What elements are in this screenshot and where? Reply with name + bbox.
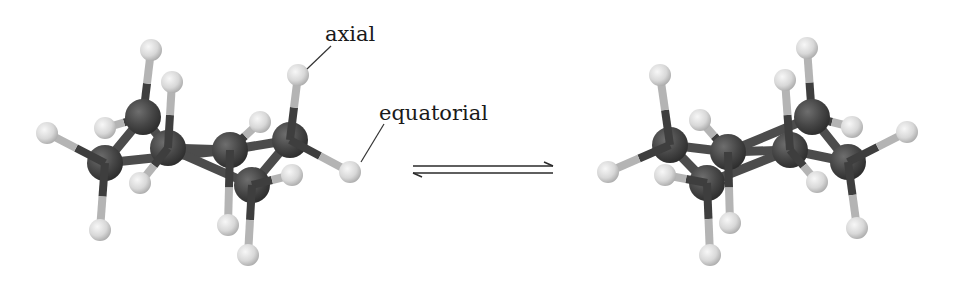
ch-bond: [728, 152, 729, 188]
ch-bond: [665, 110, 670, 145]
hydrogen-atom-equatorial: [689, 109, 711, 131]
hydrogen-atom-equatorial: [841, 116, 863, 138]
hydrogen-atom-axial: [719, 212, 741, 234]
axial-label: axial: [325, 24, 375, 45]
hydrogen-atom-equatorial: [36, 122, 58, 144]
carbon-atom: [794, 99, 830, 135]
hydrogen-atom-equatorial: [597, 161, 619, 183]
left-chair-back: [94, 39, 271, 150]
hydrogen-atom-equatorial: [249, 111, 271, 133]
axial-leader-line: [307, 46, 331, 69]
hydrogen-atom-equatorial: [339, 161, 361, 183]
right-chair: [652, 99, 866, 201]
hydrogen-atom-equatorial: [806, 171, 828, 193]
hydrogen-atom-axial: [287, 64, 309, 86]
equatorial-leader-line: [361, 124, 384, 162]
hydrogen-atom-axial: [796, 37, 818, 59]
hydrogen-atom-equatorial: [896, 121, 918, 143]
hydrogen-atom-equatorial: [654, 164, 676, 186]
left-chair: [87, 99, 308, 203]
hydrogen-atom-axial: [774, 69, 796, 91]
ch-bond: [252, 180, 272, 185]
hydrogen-atom-axial: [217, 214, 239, 236]
carbon-atom: [125, 99, 161, 135]
hydrogen-atom-axial: [846, 217, 868, 239]
hydrogen-atom-equatorial: [129, 172, 151, 194]
ch-bond: [250, 185, 252, 220]
hydrogen-atom-axial: [89, 219, 111, 241]
equatorial-label: equatorial: [379, 103, 488, 124]
hydrogen-atom-axial: [649, 64, 671, 86]
ch-bond: [848, 162, 853, 195]
ch-bond: [229, 150, 230, 188]
hydrogen-atom-axial: [140, 39, 162, 61]
hydrogen-atom-axial: [699, 244, 721, 266]
hydrogen-atom-equatorial: [94, 117, 116, 139]
molecule-canvas: [0, 0, 970, 287]
ch-bond: [103, 163, 106, 197]
hydrogen-atom-equatorial: [281, 164, 303, 186]
ch-bond: [686, 179, 707, 183]
ch-bond: [290, 108, 294, 141]
ch-bond: [707, 183, 709, 219]
ch-bond: [168, 115, 170, 148]
hydrogen-atom-axial: [237, 244, 259, 266]
equilibrium-arrow-icon: [413, 162, 553, 177]
hydrogen-atom-axial: [161, 71, 183, 93]
back-layer: [94, 37, 863, 152]
ch-bond: [788, 115, 791, 150]
ring-flip-diagram: axial equatorial: [0, 0, 970, 287]
